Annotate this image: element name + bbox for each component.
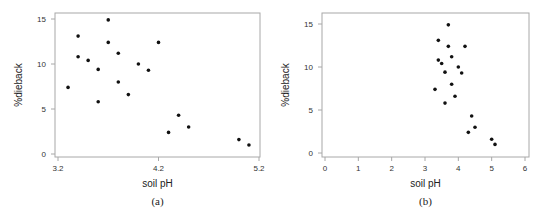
data-point: [117, 51, 121, 55]
data-point: [470, 114, 474, 118]
y-tick-label: 10: [37, 60, 46, 69]
data-point: [157, 41, 161, 45]
data-point: [106, 18, 110, 22]
y-tick-label: 0: [42, 150, 47, 159]
data-point: [86, 59, 90, 63]
data-point: [490, 137, 494, 141]
y-tick-label: 5: [309, 106, 314, 115]
data-point: [447, 23, 451, 27]
x-tick-label: 1: [356, 164, 361, 173]
data-point: [440, 62, 444, 66]
data-point: [447, 45, 451, 49]
data-point: [473, 125, 477, 129]
scatter-panel-a: 0510153.24.25.2soil pH%dieback(a): [13, 13, 265, 208]
data-point: [247, 143, 251, 147]
data-point: [127, 93, 131, 97]
data-point: [76, 55, 80, 59]
x-tick-label: 4.2: [153, 164, 165, 173]
data-point: [457, 65, 461, 69]
panel-caption: (a): [151, 195, 164, 208]
data-point: [237, 138, 241, 142]
x-tick-label: 3: [423, 164, 428, 173]
y-tick-label: 15: [37, 15, 46, 24]
data-point: [450, 55, 454, 59]
data-point: [463, 45, 467, 49]
y-tick-label: 5: [42, 105, 47, 114]
y-axis-label: %dieback: [13, 62, 24, 106]
data-point: [66, 86, 70, 90]
data-point: [443, 101, 447, 105]
y-tick-label: 15: [304, 20, 313, 29]
data-point: [450, 82, 454, 86]
x-axis-label: soil pH: [410, 178, 441, 189]
data-point: [493, 143, 497, 147]
data-point: [433, 88, 437, 92]
x-tick-label: 0: [323, 164, 328, 173]
data-point: [106, 41, 110, 45]
data-point: [167, 131, 171, 135]
x-tick-label: 3.2: [52, 164, 64, 173]
x-axis-label: soil pH: [142, 178, 173, 189]
x-tick-label: 2: [389, 164, 394, 173]
x-tick-label: 4: [456, 164, 461, 173]
data-point: [443, 70, 447, 74]
data-point: [96, 68, 100, 72]
y-axis-label: %dieback: [280, 62, 291, 106]
figure: 0510153.24.25.2soil pH%dieback(a) 051015…: [0, 0, 543, 217]
x-tick-label: 6: [523, 164, 528, 173]
scatter-panel-b: 0510150123456soil pH%dieback(b): [280, 13, 529, 208]
data-point: [117, 80, 121, 84]
data-point: [76, 34, 80, 38]
y-tick-label: 10: [304, 63, 313, 72]
data-point: [437, 58, 441, 62]
data-point: [460, 71, 464, 75]
data-point: [187, 125, 191, 129]
data-point: [96, 100, 100, 104]
x-tick-label: 5: [489, 164, 494, 173]
data-point: [453, 94, 457, 98]
data-point: [177, 114, 181, 118]
x-tick-label: 5.2: [253, 164, 265, 173]
data-point: [137, 62, 141, 66]
panel-caption: (b): [419, 195, 432, 208]
y-tick-label: 0: [309, 149, 314, 158]
data-point: [147, 69, 151, 73]
plot-frame: [322, 13, 529, 157]
data-point: [467, 131, 471, 135]
plot-frame: [55, 13, 260, 157]
data-point: [437, 39, 441, 43]
